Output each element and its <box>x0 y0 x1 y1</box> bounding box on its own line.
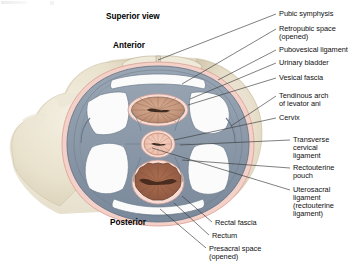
orientation-anterior: Anterior <box>113 41 145 50</box>
label-pubovesical-ligament: Pubovesical ligament <box>279 46 348 55</box>
label-rectal-fascia: Rectal fascia <box>215 219 257 228</box>
label-urinary-bladder: Urinary bladder <box>279 59 329 68</box>
rectum <box>132 160 184 204</box>
label-cervix: Cervix <box>279 114 300 123</box>
urinary-bladder <box>128 94 188 126</box>
label-uterosacral-ligament-2: ligament) <box>293 210 323 219</box>
label-transverse-cervical-ligament: ligament <box>293 152 321 161</box>
label-rectum: Rectum <box>212 232 237 241</box>
label-retropubic-space-opened: (opened) <box>279 33 308 42</box>
label-rectouterine-pouch-2: pouch <box>293 172 313 181</box>
label-presacral-space-opened: (opened) <box>209 253 238 262</box>
label-pubic-symphysis: Pubic symphysis <box>279 10 333 19</box>
label-vesical-fascia: Vesical fascia <box>279 74 323 83</box>
figure-title: Superior view <box>106 12 160 21</box>
label-tendinous-arch-levator: of levator ani <box>279 100 321 109</box>
orientation-posterior: Posterior <box>110 218 146 227</box>
